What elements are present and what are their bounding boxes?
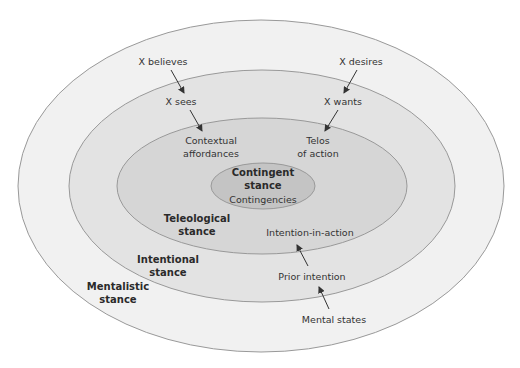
label-teleological-stance: Teleological stance bbox=[164, 212, 230, 238]
label-intention-in-action: Intention-in-action bbox=[266, 226, 353, 239]
label-intentional-stance: Intentional stance bbox=[137, 253, 199, 279]
label-prior-intention: Prior intention bbox=[278, 270, 345, 283]
label-contingencies: Contingencies bbox=[229, 193, 296, 206]
label-x-sees: X sees bbox=[165, 95, 196, 108]
label-mentalistic-stance: Mentalistic stance bbox=[87, 280, 149, 306]
label-mental-states: Mental states bbox=[302, 313, 366, 326]
label-x-desires: X desires bbox=[339, 55, 382, 68]
label-contingent-stance: Contingent stance bbox=[232, 166, 295, 192]
label-contextual-affordances: Contextual affordances bbox=[183, 134, 239, 160]
label-telos-of-action: Telos of action bbox=[297, 134, 338, 160]
label-x-believes: X believes bbox=[139, 55, 188, 68]
label-x-wants: X wants bbox=[324, 95, 362, 108]
